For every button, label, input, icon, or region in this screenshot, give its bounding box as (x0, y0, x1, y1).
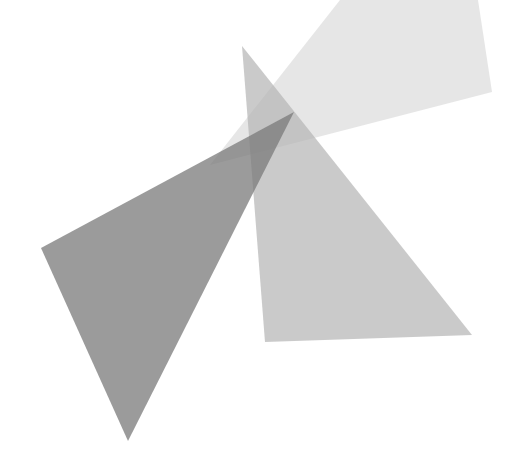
abstract-triangles-canvas (0, 0, 522, 465)
